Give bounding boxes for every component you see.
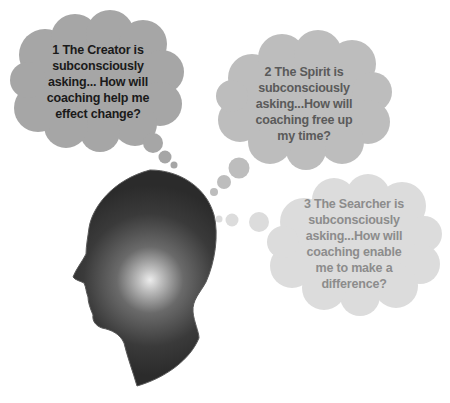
- thought-bubble-trail-2: [210, 158, 250, 197]
- cloud-1-line: coaching help me: [28, 90, 168, 106]
- cloud-1-line: effect change?: [28, 106, 168, 122]
- thought-diagram: 1 The Creator is subconsciously asking..…: [0, 0, 450, 403]
- cloud-3-line: coaching enable: [286, 244, 422, 260]
- cloud-1-line: subconsciously: [28, 58, 168, 74]
- head-silhouette: [73, 170, 216, 386]
- cloud-3-line: me to make a: [286, 260, 422, 276]
- cloud-1-text: 1 The Creator is subconsciously asking..…: [28, 42, 168, 122]
- cloud-3-line: 3 The Searcher is: [286, 196, 422, 212]
- cloud-1-line: 1 The Creator is: [28, 42, 168, 58]
- cloud-1-line: asking... How will: [28, 74, 168, 90]
- cloud-2-text: 2 The Spirit is subconsciously asking...…: [236, 64, 372, 144]
- cloud-3-line: asking...How will: [286, 228, 422, 244]
- cloud-2-line: asking...How will: [236, 96, 372, 112]
- cloud-2-line: my time?: [236, 128, 372, 144]
- cloud-2-line: coaching free up: [236, 112, 372, 128]
- cloud-3-line: subconsciously: [286, 212, 422, 228]
- cloud-3-text: 3 The Searcher is subconsciously asking.…: [286, 196, 422, 292]
- thought-bubble-trail-1: [143, 133, 178, 169]
- thought-bubble-trail-3: [216, 212, 270, 232]
- cloud-3-line: difference?: [286, 276, 422, 292]
- cloud-2-line: 2 The Spirit is: [236, 64, 372, 80]
- cloud-2-line: subconsciously: [236, 80, 372, 96]
